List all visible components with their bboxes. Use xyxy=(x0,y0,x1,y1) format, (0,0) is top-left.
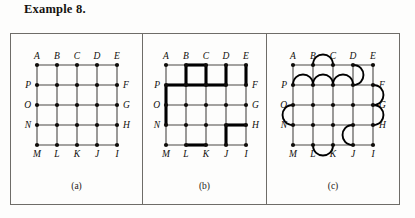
svg-text:N: N xyxy=(24,120,32,130)
svg-text:H: H xyxy=(122,120,131,130)
svg-text:O: O xyxy=(24,100,31,110)
svg-text:P: P xyxy=(24,80,31,90)
svg-text:H: H xyxy=(378,120,387,130)
svg-text:G: G xyxy=(379,100,386,110)
svg-text:A: A xyxy=(162,51,169,61)
svg-text:D: D xyxy=(93,51,101,61)
panel-a: ABCDEMLKJIPONFGH (a) xyxy=(11,34,142,204)
svg-text:F: F xyxy=(378,80,385,90)
panel-b: ABCDEMLKJIPONFGH (b) xyxy=(142,34,267,204)
svg-text:F: F xyxy=(122,80,129,90)
svg-text:L: L xyxy=(182,149,188,159)
svg-text:B: B xyxy=(54,51,60,61)
svg-text:J: J xyxy=(95,149,100,159)
svg-text:K: K xyxy=(202,149,210,159)
graph-diagram-c: ABCDEMLKJIPONFGH xyxy=(267,34,399,204)
svg-text:M: M xyxy=(288,149,298,159)
svg-text:G: G xyxy=(252,100,259,110)
svg-text:E: E xyxy=(369,51,376,61)
panel-caption-a: (a) xyxy=(11,181,142,191)
svg-text:C: C xyxy=(330,51,337,61)
svg-text:B: B xyxy=(310,51,316,61)
graph-diagram-b: ABCDEMLKJIPONFGH xyxy=(143,34,268,204)
svg-text:N: N xyxy=(153,120,161,130)
figure-page: Example 8. ABCDEMLKJIPONFGH (a) ABCDEMLK… xyxy=(0,0,415,218)
svg-text:I: I xyxy=(370,149,375,159)
svg-text:E: E xyxy=(242,51,249,61)
svg-text:J: J xyxy=(224,149,229,159)
svg-text:L: L xyxy=(309,149,315,159)
page-title: Example 8. xyxy=(24,2,86,17)
graph-diagram-a: ABCDEMLKJIPONFGH xyxy=(11,34,142,204)
figure-frame: ABCDEMLKJIPONFGH (a) ABCDEMLKJIPONFGH (b… xyxy=(10,33,400,205)
svg-text:K: K xyxy=(73,149,81,159)
svg-text:I: I xyxy=(114,149,119,159)
svg-text:C: C xyxy=(74,51,81,61)
svg-text:F: F xyxy=(251,80,258,90)
panel-row: ABCDEMLKJIPONFGH (a) ABCDEMLKJIPONFGH (b… xyxy=(11,34,399,204)
svg-text:E: E xyxy=(113,51,120,61)
svg-text:D: D xyxy=(222,51,230,61)
svg-text:I: I xyxy=(243,149,248,159)
svg-text:N: N xyxy=(280,120,288,130)
svg-text:G: G xyxy=(123,100,130,110)
panel-caption-c: (c) xyxy=(267,181,399,191)
svg-text:A: A xyxy=(289,51,296,61)
svg-text:P: P xyxy=(153,80,160,90)
svg-text:H: H xyxy=(251,120,260,130)
panel-caption-b: (b) xyxy=(143,181,266,191)
svg-text:A: A xyxy=(33,51,40,61)
svg-text:M: M xyxy=(161,149,171,159)
svg-text:C: C xyxy=(203,51,210,61)
svg-text:B: B xyxy=(183,51,189,61)
svg-text:O: O xyxy=(153,100,160,110)
svg-text:O: O xyxy=(280,100,287,110)
svg-text:M: M xyxy=(32,149,42,159)
svg-text:L: L xyxy=(53,149,59,159)
svg-text:P: P xyxy=(280,80,287,90)
svg-text:K: K xyxy=(329,149,337,159)
svg-text:J: J xyxy=(351,149,356,159)
svg-text:D: D xyxy=(349,51,357,61)
panel-c: ABCDEMLKJIPONFGH (c) xyxy=(267,34,399,204)
